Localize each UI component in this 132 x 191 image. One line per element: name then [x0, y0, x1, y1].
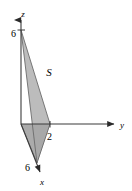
- surface-label-s: S: [46, 66, 52, 78]
- y-tick-label-2: 2: [47, 131, 52, 142]
- z-tick-label-6: 6: [11, 28, 16, 39]
- x-axis-label: x: [40, 177, 44, 187]
- figure-container: z 6 y 2 x 6 S: [0, 0, 132, 191]
- z-axis-label: z: [21, 9, 25, 19]
- y-axis-label: y: [120, 120, 124, 130]
- x-tick-label-6: 6: [25, 162, 30, 173]
